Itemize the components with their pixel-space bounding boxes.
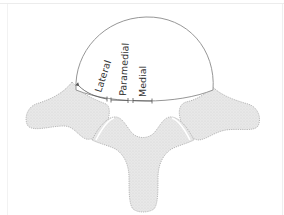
spinous-process	[92, 117, 194, 212]
vertebra-diagram: Lateral Paramedial Medial	[0, 0, 284, 215]
label-medial: Medial	[137, 66, 148, 97]
